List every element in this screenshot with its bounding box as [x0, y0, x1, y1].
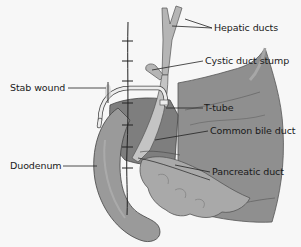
t-tube-diagram: Hepatic ducts Cystic duct stump Stab wou… [0, 0, 301, 247]
label-cystic-duct-stump: Cystic duct stump [205, 55, 289, 66]
leader-cystic-duct-stump [152, 61, 203, 70]
label-hepatic-ducts: Hepatic ducts [214, 22, 278, 33]
hepatic-ducts [162, 6, 182, 75]
cystic-duct-stump [146, 64, 164, 80]
label-duodenum: Duodenum [10, 160, 62, 171]
label-common-bile-duct: Common bile duct [210, 125, 295, 136]
anatomy-illustration [0, 0, 301, 247]
label-stab-wound: Stab wound [10, 82, 65, 93]
label-pancreatic-duct: Pancreatic duct [212, 166, 284, 177]
label-t-tube: T-tube [204, 102, 233, 113]
